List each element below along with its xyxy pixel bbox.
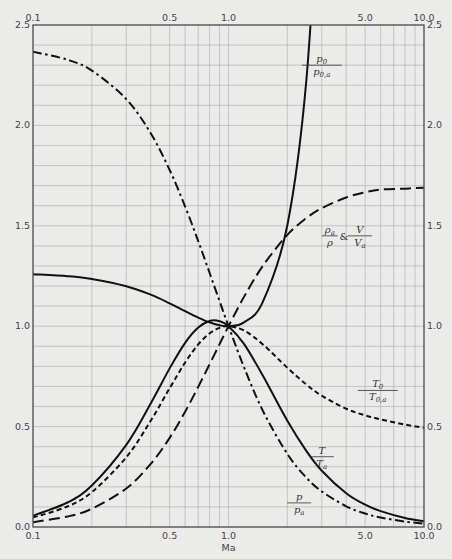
y-tick-label-left: 2.0 <box>15 119 30 130</box>
series-line-p0-p0-a <box>33 0 322 326</box>
label-denominator: ρ <box>326 237 333 248</box>
y-tick-label-left: 1.0 <box>15 320 30 331</box>
chart: 0.10.10.50.51.01.05.05.010.010.00.00.00.… <box>0 0 452 559</box>
y-tick-label-left: 0.5 <box>15 421 30 432</box>
x-tick-label-bottom: 0.5 <box>162 530 177 541</box>
x-tick-label-top: 0.5 <box>162 12 177 23</box>
label-denominator: pa <box>294 504 305 517</box>
label-numerator: p <box>296 491 303 502</box>
x-tick-label-top: 5.0 <box>358 12 373 23</box>
y-tick-label-right: 2.0 <box>427 119 442 130</box>
label-connector: & <box>339 231 348 242</box>
chart-svg: 0.10.10.50.51.01.05.05.010.010.00.00.00.… <box>0 0 452 559</box>
x-axis-label: Ma <box>221 542 235 553</box>
x-tick-label-top: 1.0 <box>221 12 236 23</box>
y-tick-label-left: 2.5 <box>15 19 30 30</box>
label-numerator: T <box>318 445 326 456</box>
label-numerator: V <box>356 224 365 235</box>
label-numerator: p0 <box>316 53 327 66</box>
label-denominator: T0,a <box>369 391 387 404</box>
x-tick-label-bottom: 1.0 <box>221 530 236 541</box>
y-tick-label-right: 2.5 <box>427 19 442 30</box>
y-tick-label-left: 1.5 <box>15 220 30 231</box>
y-tick-label-right: 0.0 <box>427 521 442 532</box>
curve-label-a-v-va: ρaρ <box>322 224 338 248</box>
label-numerator: T0 <box>372 378 384 391</box>
y-tick-label-right: 1.5 <box>427 220 442 231</box>
y-tick-label-right: 1.0 <box>427 320 442 331</box>
y-tick-label-right: 0.5 <box>427 421 442 432</box>
x-tick-label-bottom: 5.0 <box>358 530 373 541</box>
y-tick-label-left: 0.0 <box>15 521 30 532</box>
curve-label-t0-t0-a: T0T0,a <box>358 378 398 404</box>
grid <box>33 25 424 527</box>
curve-label-p-pa: ppa <box>287 491 311 517</box>
label-denominator: Va <box>354 237 365 250</box>
